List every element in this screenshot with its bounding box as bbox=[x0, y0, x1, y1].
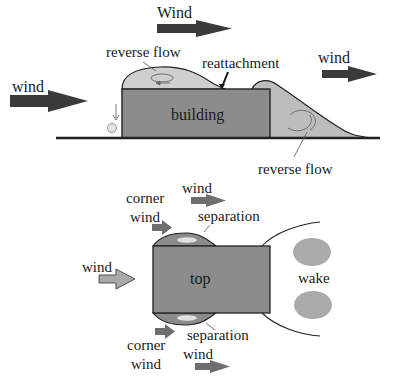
wind-flow-diagram: building Wind wind wind reverse flow bbox=[0, 0, 419, 382]
wake-eddy-top bbox=[293, 238, 331, 266]
wind-label-right: wind bbox=[318, 49, 350, 66]
separation-label-top: separation bbox=[198, 208, 260, 224]
reverse-flow-wake-label: reverse flow bbox=[258, 161, 333, 177]
corner-wind-label-top: wind bbox=[130, 209, 161, 225]
plan-wind-label-bottom: wind bbox=[183, 346, 214, 362]
plan-wind-left-label: wind bbox=[82, 259, 113, 275]
reattachment-label: reattachment bbox=[202, 55, 280, 71]
downwash-arrow-icon bbox=[113, 104, 119, 120]
building-top bbox=[153, 246, 270, 313]
separation-bubble-top bbox=[177, 237, 197, 243]
building-label: building bbox=[171, 106, 224, 124]
wake-label: wake bbox=[298, 270, 330, 286]
wind-label-left: wind bbox=[12, 78, 44, 95]
corner-vortex-icon bbox=[108, 124, 117, 133]
top-label: top bbox=[190, 270, 210, 288]
corner-wind-label-bottom: wind bbox=[131, 356, 162, 372]
plan-view: top wake wind corner wind wind separatio… bbox=[82, 180, 332, 373]
separation-bubble-bottom bbox=[177, 315, 197, 321]
wind-arrow-right-icon bbox=[322, 66, 377, 82]
plan-wind-label-top: wind bbox=[182, 180, 213, 196]
reverse-flow-roof-label: reverse flow bbox=[106, 44, 181, 60]
separation-label-bottom: separation bbox=[187, 327, 249, 343]
separation-leader-top bbox=[204, 225, 210, 232]
wind-label-top: Wind bbox=[157, 4, 192, 21]
wind-arrow-top-icon bbox=[157, 20, 232, 37]
side-view: building Wind wind wind reverse flow bbox=[10, 4, 380, 177]
corner-label-bottom: corner bbox=[127, 337, 165, 353]
wake-eddy-bottom bbox=[294, 291, 332, 319]
corner-label-top: corner bbox=[126, 190, 164, 206]
